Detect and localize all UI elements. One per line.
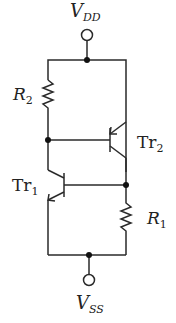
vss-terminal xyxy=(84,275,95,286)
junction-bottom xyxy=(86,252,92,258)
vdd-terminal xyxy=(82,30,93,41)
r1-label: R1 xyxy=(147,208,167,228)
vdd-label: VDD xyxy=(70,0,101,21)
circuit-schematic xyxy=(0,0,176,323)
junction-right xyxy=(123,182,129,188)
junction-left xyxy=(45,137,51,143)
r1-resistor xyxy=(121,185,131,255)
r2-resistor xyxy=(43,80,53,140)
tr2-label: Tr2 xyxy=(137,132,163,152)
vss-label: VSS xyxy=(76,292,104,313)
top-rail xyxy=(48,60,126,172)
tr1-label: Tr1 xyxy=(12,175,38,195)
junction-top xyxy=(84,57,90,63)
r2-label: R2 xyxy=(13,84,33,104)
